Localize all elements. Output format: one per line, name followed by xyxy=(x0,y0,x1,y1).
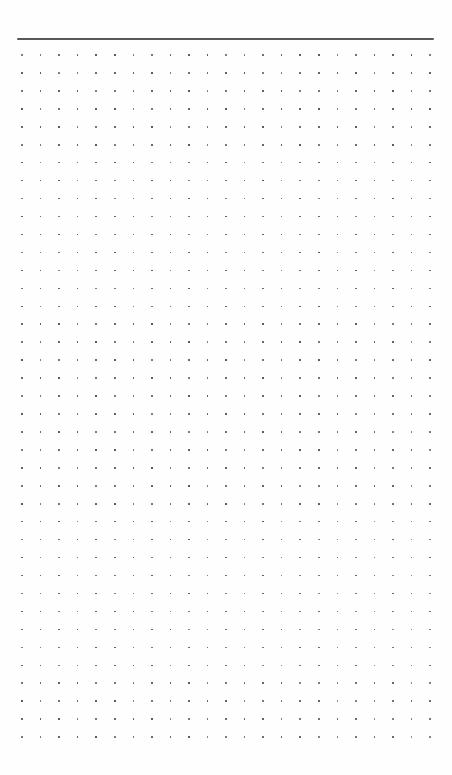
grid-dot xyxy=(392,557,394,559)
grid-dot xyxy=(299,467,301,469)
grid-dot xyxy=(207,665,209,667)
grid-dot xyxy=(21,700,23,702)
grid-dot xyxy=(299,575,301,577)
grid-dot xyxy=(299,216,301,218)
grid-dot xyxy=(355,503,357,505)
grid-dot xyxy=(281,144,283,146)
grid-dot xyxy=(114,162,116,164)
grid-dot xyxy=(374,431,376,433)
grid-dot xyxy=(114,718,116,720)
grid-dot xyxy=(299,162,301,164)
grid-dot xyxy=(21,718,23,720)
grid-dot xyxy=(21,647,23,649)
grid-dot xyxy=(133,593,135,595)
grid-dot xyxy=(244,718,246,720)
grid-dot xyxy=(225,736,227,738)
grid-dot xyxy=(133,252,135,254)
grid-dot xyxy=(188,539,190,541)
grid-dot xyxy=(281,485,283,487)
grid-dot xyxy=(262,377,264,379)
grid-dot xyxy=(151,162,153,164)
grid-dot xyxy=(95,736,97,738)
grid-dot xyxy=(170,234,172,236)
grid-dot xyxy=(392,198,394,200)
grid-dot xyxy=(58,323,60,325)
grid-dot xyxy=(133,90,135,92)
grid-dot xyxy=(151,718,153,720)
grid-dot xyxy=(133,575,135,577)
grid-dot xyxy=(411,341,413,343)
grid-dot xyxy=(337,629,339,631)
grid-dot xyxy=(95,485,97,487)
grid-dot xyxy=(299,108,301,110)
grid-dot xyxy=(244,557,246,559)
grid-dot xyxy=(95,521,97,523)
grid-dot xyxy=(355,341,357,343)
grid-dot xyxy=(133,377,135,379)
grid-dot xyxy=(281,252,283,254)
grid-dot xyxy=(262,539,264,541)
grid-dot xyxy=(95,234,97,236)
grid-dot xyxy=(262,90,264,92)
grid-dot xyxy=(337,575,339,577)
grid-dot xyxy=(40,503,42,505)
grid-dot xyxy=(114,108,116,110)
grid-dot xyxy=(225,108,227,110)
grid-dot xyxy=(337,180,339,182)
grid-dot xyxy=(207,539,209,541)
grid-dot xyxy=(374,377,376,379)
grid-dot xyxy=(151,431,153,433)
grid-dot xyxy=(299,449,301,451)
grid-dot xyxy=(318,593,320,595)
grid-dot xyxy=(151,736,153,738)
grid-dot xyxy=(21,467,23,469)
grid-dot xyxy=(281,682,283,684)
grid-dot xyxy=(170,575,172,577)
grid-dot xyxy=(58,306,60,308)
grid-dot xyxy=(133,413,135,415)
grid-dot xyxy=(337,647,339,649)
grid-dot xyxy=(170,72,172,74)
grid-dot xyxy=(374,485,376,487)
grid-dot xyxy=(21,341,23,343)
grid-dot xyxy=(95,449,97,451)
grid-dot xyxy=(95,90,97,92)
grid-dot xyxy=(244,575,246,577)
grid-dot xyxy=(225,270,227,272)
grid-dot xyxy=(40,395,42,397)
grid-dot xyxy=(114,90,116,92)
grid-dot xyxy=(337,252,339,254)
grid-dot xyxy=(337,306,339,308)
grid-dot xyxy=(170,647,172,649)
grid-dot xyxy=(225,72,227,74)
grid-dot xyxy=(429,682,431,684)
grid-dot xyxy=(188,198,190,200)
grid-dot xyxy=(114,270,116,272)
grid-dot xyxy=(151,288,153,290)
grid-dot xyxy=(299,270,301,272)
grid-dot xyxy=(337,72,339,74)
grid-dot xyxy=(244,54,246,56)
grid-dot xyxy=(151,682,153,684)
grid-dot xyxy=(95,108,97,110)
grid-dot xyxy=(337,395,339,397)
grid-dot xyxy=(244,72,246,74)
grid-dot xyxy=(337,665,339,667)
grid-dot xyxy=(244,126,246,128)
grid-dot xyxy=(77,682,79,684)
grid-dot xyxy=(429,108,431,110)
grid-dot xyxy=(355,395,357,397)
grid-dot xyxy=(188,359,190,361)
grid-dot xyxy=(299,54,301,56)
grid-dot xyxy=(114,503,116,505)
grid-dot xyxy=(392,467,394,469)
grid-dot xyxy=(151,647,153,649)
grid-dot xyxy=(95,593,97,595)
grid-dot xyxy=(114,252,116,254)
grid-dot xyxy=(133,341,135,343)
grid-dot xyxy=(188,593,190,595)
grid-dot xyxy=(411,682,413,684)
grid-dot xyxy=(95,341,97,343)
grid-dot xyxy=(151,593,153,595)
grid-dot xyxy=(151,306,153,308)
